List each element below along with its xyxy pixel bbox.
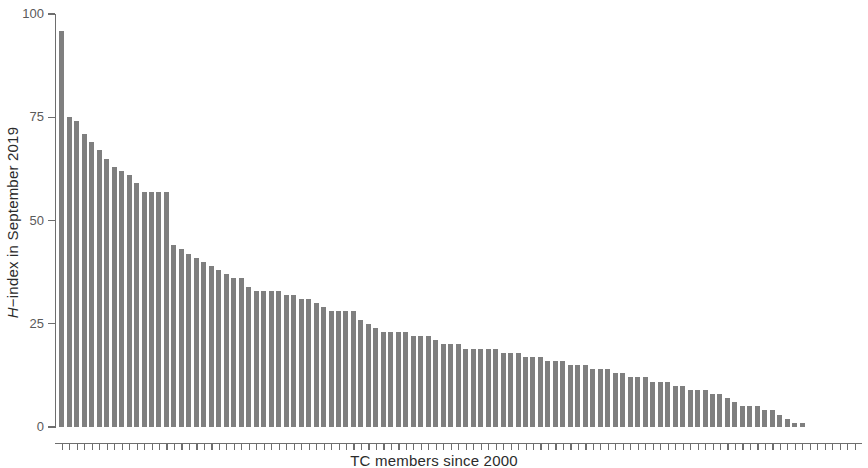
x-tick-mark [114, 444, 115, 450]
bar [366, 324, 371, 427]
bar [792, 423, 797, 427]
x-tick-mark [720, 444, 721, 450]
bar [142, 192, 147, 427]
bar [635, 377, 640, 427]
x-tick-mark [795, 444, 796, 450]
x-tick-mark [570, 444, 571, 450]
bar [299, 299, 304, 427]
bar [216, 270, 221, 427]
x-tick-mark [668, 444, 669, 450]
x-tick-mark [346, 444, 347, 450]
bar [119, 171, 124, 427]
x-tick-mark [204, 444, 205, 450]
x-tick-mark [615, 444, 616, 450]
x-tick-mark [398, 444, 399, 450]
bar [201, 262, 206, 427]
bar [478, 349, 483, 427]
bar [231, 278, 236, 427]
x-tick-mark [608, 444, 609, 450]
x-tick-mark [443, 444, 444, 450]
x-tick-mark [458, 444, 459, 450]
bar [710, 394, 715, 427]
bar [486, 349, 491, 427]
bar [590, 369, 595, 427]
bar [516, 353, 521, 427]
x-tick-mark [578, 444, 579, 450]
x-tick-mark [675, 444, 676, 450]
x-tick-mark [129, 444, 130, 450]
x-tick-mark [84, 444, 85, 450]
x-tick-mark [361, 444, 362, 450]
x-tick-mark [353, 444, 354, 450]
bar [598, 369, 603, 427]
bar [343, 311, 348, 427]
x-tick-mark [219, 444, 220, 450]
x-tick-mark [653, 444, 654, 450]
x-tick-mark [548, 444, 549, 450]
bar [508, 353, 513, 427]
bar [605, 369, 610, 427]
x-tick-mark [511, 444, 512, 450]
bar [620, 373, 625, 427]
x-tick-mark [391, 444, 392, 450]
bar [762, 410, 767, 427]
bar [673, 386, 678, 427]
y-tick-mark [48, 220, 55, 221]
bar [373, 328, 378, 427]
bar [104, 159, 109, 427]
bar [164, 192, 169, 427]
x-tick-mark [436, 444, 437, 450]
bar [284, 295, 289, 427]
bar [179, 249, 184, 427]
y-tick-label: 75 [10, 109, 44, 124]
y-tick-mark [48, 323, 55, 324]
x-tick-mark [107, 444, 108, 450]
x-tick-mark [286, 444, 287, 450]
x-tick-mark [750, 444, 751, 450]
bar [523, 357, 528, 427]
bar [171, 245, 176, 427]
bar [67, 117, 72, 427]
x-tick-mark [62, 444, 63, 450]
bar [306, 299, 311, 427]
x-tick-mark [226, 444, 227, 450]
x-tick-mark [690, 444, 691, 450]
bar [411, 336, 416, 427]
bar [568, 365, 573, 427]
bar [613, 373, 618, 427]
bar [493, 349, 498, 427]
bar [777, 415, 782, 427]
x-tick-mark [99, 444, 100, 450]
bar [261, 291, 266, 427]
y-tick-mark [48, 117, 55, 118]
x-tick-mark [339, 444, 340, 450]
bar [134, 183, 139, 427]
bar [351, 311, 356, 427]
x-tick-mark [503, 444, 504, 450]
bar [321, 307, 326, 427]
x-tick-mark [780, 444, 781, 450]
x-tick-mark [705, 444, 706, 450]
bar [127, 175, 132, 427]
x-tick-mark [735, 444, 736, 450]
bar [575, 365, 580, 427]
x-tick-mark [152, 444, 153, 450]
x-tick-mark [742, 444, 743, 450]
bar [755, 406, 760, 427]
x-tick-mark [473, 444, 474, 450]
x-tick-mark [481, 444, 482, 450]
bar [314, 303, 319, 427]
x-tick-mark [533, 444, 534, 450]
y-tick-label: 0 [10, 419, 44, 434]
x-tick-mark [638, 444, 639, 450]
bar [665, 382, 670, 427]
bar [381, 332, 386, 427]
x-tick-mark [855, 444, 856, 450]
bar [785, 419, 790, 427]
bar [695, 390, 700, 427]
bar [456, 344, 461, 427]
bar [97, 150, 102, 427]
bar [112, 167, 117, 427]
x-tick-mark [309, 444, 310, 450]
bar [643, 377, 648, 427]
